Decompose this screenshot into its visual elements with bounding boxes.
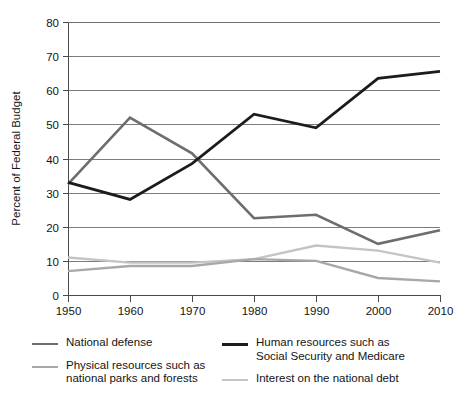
- y-axis-ticks: [63, 23, 68, 296]
- series-line: [68, 118, 440, 244]
- y-tick-label: 80: [46, 17, 59, 29]
- y-tick-label: 0: [53, 290, 59, 302]
- legend-swatch-interest-national-debt: [222, 379, 248, 381]
- y-axis-title-text: Percent of Federal Budget: [10, 91, 22, 226]
- legend-swatch-national-defense: [32, 343, 58, 345]
- chart-legend: National defense Physical resources such…: [0, 330, 468, 400]
- y-tick-label: 30: [46, 188, 59, 200]
- plot-area: 01020304050607080 1950196019701980199020…: [0, 0, 468, 330]
- x-axis-ticks: [69, 295, 441, 302]
- x-tick-label: 2000: [366, 305, 392, 317]
- legend-item-national-defense: National defense: [32, 336, 222, 350]
- legend-label-national-defense: National defense: [66, 336, 152, 350]
- legend-column-left: National defense Physical resources such…: [32, 336, 222, 395]
- y-tick-label: 50: [46, 119, 59, 131]
- y-tick-label: 20: [46, 222, 59, 234]
- x-tick-label: 1970: [180, 305, 206, 317]
- legend-swatch-physical-resources: [32, 366, 58, 368]
- x-tick-label: 2010: [428, 305, 454, 317]
- data-series: [68, 71, 440, 281]
- legend-item-human-resources: Human resources such as Social Security …: [222, 336, 458, 363]
- x-tick-label: 1960: [118, 305, 144, 317]
- legend-column-right: Human resources such as Social Security …: [222, 336, 458, 395]
- x-tick-label: 1980: [242, 305, 268, 317]
- legend-label-physical-resources: Physical resources such as national park…: [66, 359, 205, 386]
- line-chart: 01020304050607080 1950196019701980199020…: [0, 0, 468, 400]
- y-tick-label: 40: [46, 154, 59, 166]
- y-tick-label: 60: [46, 85, 59, 97]
- legend-item-physical-resources: Physical resources such as national park…: [32, 359, 222, 386]
- x-tick-label: 1950: [56, 305, 82, 317]
- axis-lines: [69, 23, 441, 296]
- legend-swatch-human-resources: [222, 343, 248, 346]
- y-tick-label: 10: [46, 256, 59, 268]
- chart-svg: 01020304050607080 1950196019701980199020…: [0, 0, 468, 330]
- y-tick-label: 70: [46, 51, 59, 63]
- y-axis-title: Percent of Federal Budget: [10, 91, 22, 226]
- legend-label-human-resources: Human resources such as Social Security …: [256, 336, 405, 363]
- grid-lines: [68, 23, 440, 262]
- x-axis-tick-labels: 1950196019701980199020002010: [56, 305, 454, 317]
- legend-item-interest-national-debt: Interest on the national debt: [222, 372, 458, 386]
- x-tick-label: 1990: [304, 305, 330, 317]
- legend-label-interest-national-debt: Interest on the national debt: [256, 372, 399, 386]
- y-axis-tick-labels: 01020304050607080: [46, 17, 59, 302]
